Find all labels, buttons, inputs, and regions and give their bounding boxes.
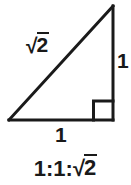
hypotenuse-line [9,6,113,120]
vertical-leg-label: 1 [117,50,129,71]
right-angle-marker-icon [94,101,114,120]
figure-root: √2 1 1 1:1:√2 [0,0,131,185]
radicand-value: 2 [37,32,50,55]
triangle-diagram [0,0,131,140]
caption-radicand-value: 2 [84,154,97,179]
ratio-caption: 1:1:√2 [0,155,131,180]
sqrt-expression: √2 [26,33,49,56]
horizontal-leg-label: 1 [55,124,67,145]
hypotenuse-label: √2 [26,33,49,56]
caption-sqrt-expression: √2 [73,155,97,180]
ratio-caption-prefix: 1:1: [34,156,73,181]
